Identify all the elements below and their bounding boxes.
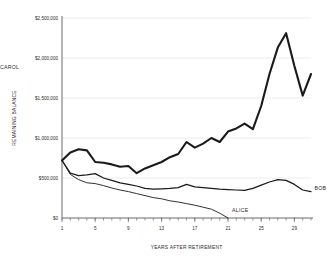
x-axis-tick-label: 1 — [61, 226, 64, 231]
y-axis-title: REMAINING BALANCE — [12, 90, 17, 146]
x-axis-tick-label: 29 — [292, 226, 298, 231]
x-axis-tick-label: 9 — [127, 226, 130, 231]
chart-canvas: $0$500,000$1,000,000$1,500,000$2,000,000… — [0, 0, 333, 268]
y-axis-tick-label: $0 — [53, 216, 59, 221]
y-axis-tick-label: $1,000,000 — [35, 136, 58, 141]
x-axis-title: YEARS AFTER RETIREMENT — [151, 245, 223, 250]
x-axis-tick-label: 17 — [192, 226, 198, 231]
y-axis-tick-label: $500,000 — [39, 176, 59, 181]
y-axis-tick-label: $2,500,000 — [35, 16, 58, 21]
x-axis-tick-label: 5 — [94, 226, 97, 231]
y-axis-tick-label: $2,000,000 — [35, 56, 58, 61]
retirement-balance-chart: $0$500,000$1,000,000$1,500,000$2,000,000… — [0, 0, 333, 268]
x-axis-tick-label: 25 — [259, 226, 265, 231]
x-axis-tick-label: 13 — [159, 226, 165, 231]
series-label-bob: BOB — [315, 185, 327, 191]
y-axis-tick-label: $1,500,000 — [35, 96, 58, 101]
series-label-alice: ALICE — [232, 207, 249, 213]
x-axis-tick-label: 21 — [225, 226, 231, 231]
series-label-carol: CAROL — [0, 64, 19, 70]
